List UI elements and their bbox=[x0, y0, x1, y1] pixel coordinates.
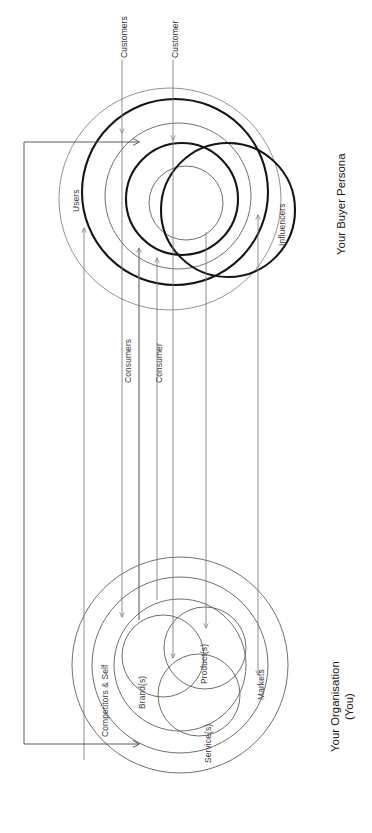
ring-consumer bbox=[149, 166, 223, 240]
ring-users bbox=[59, 88, 281, 310]
label-customers: Customers bbox=[119, 16, 129, 58]
label-products: Product(s) bbox=[199, 644, 209, 684]
connectors bbox=[84, 60, 258, 760]
label-services: Service(s) bbox=[203, 724, 213, 763]
label-consumers: Consumers bbox=[123, 339, 133, 383]
label-markets: Markets bbox=[256, 669, 266, 700]
label-consumer: Consumer bbox=[154, 343, 164, 383]
title-organisation: Your Organisation (You) bbox=[328, 661, 357, 752]
label-users: Users bbox=[71, 189, 81, 212]
ring-markets bbox=[92, 577, 268, 753]
business-model-diagram-svg bbox=[0, 0, 372, 833]
buyer-persona-cluster bbox=[59, 88, 295, 310]
ring-customers bbox=[82, 99, 268, 285]
title-organisation-line2: (You) bbox=[342, 661, 356, 752]
label-customer: Customer bbox=[170, 20, 180, 58]
ring-influencers bbox=[161, 143, 295, 277]
ring-brands bbox=[122, 615, 204, 697]
title-buyer-persona: Your Buyer Persona bbox=[334, 153, 348, 255]
label-competitors-and-self: Competitors & Self bbox=[100, 664, 110, 737]
ring-customer bbox=[126, 143, 238, 255]
title-organisation-line1: Your Organisation bbox=[328, 661, 342, 752]
diagram-canvas: Customers Customer Consumers Consumer Us… bbox=[0, 0, 372, 833]
label-brands: Brand(s) bbox=[137, 676, 147, 709]
label-influencers: Influencers bbox=[277, 203, 287, 246]
